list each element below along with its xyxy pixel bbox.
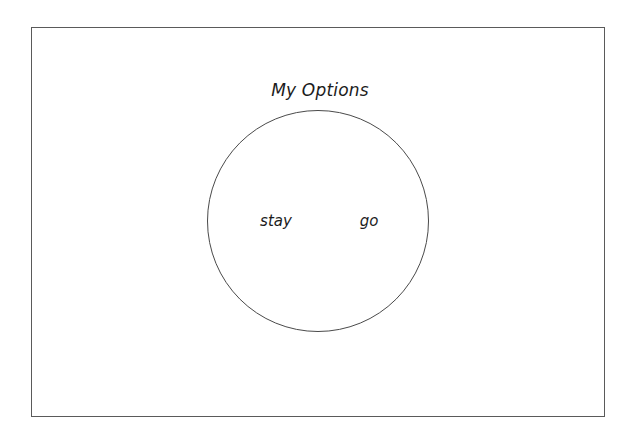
option-label-go: go bbox=[356, 212, 382, 230]
option-label-stay: stay bbox=[254, 212, 298, 230]
diagram-title: My Options bbox=[0, 80, 640, 100]
slide-canvas: My Options stay go bbox=[0, 0, 640, 437]
